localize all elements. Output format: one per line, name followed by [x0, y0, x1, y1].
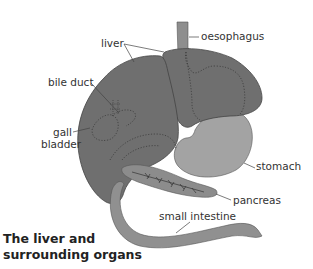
- label-liver: liver: [101, 37, 125, 49]
- small-intestine-leader: [176, 222, 190, 233]
- label-oesophagus: oesophagus: [201, 30, 264, 42]
- pancreas-leader: [216, 194, 231, 200]
- liver-diagram: liver oesophagus bile duct gall bladder …: [0, 0, 313, 269]
- stomach-leader: [244, 163, 255, 168]
- label-pancreas: pancreas: [233, 194, 281, 206]
- label-stomach: stomach: [256, 160, 301, 172]
- title-line-2: surrounding organs: [3, 247, 142, 263]
- title-line-1: The liver and: [3, 231, 142, 247]
- liver-right-lobe: [163, 49, 262, 128]
- label-bladder: bladder: [41, 138, 82, 150]
- diagram-title: The liver and surrounding organs: [3, 231, 142, 263]
- label-gall: gall: [53, 126, 72, 138]
- label-small-intestine: small intestine: [159, 210, 236, 222]
- label-bile-duct: bile duct: [48, 76, 94, 88]
